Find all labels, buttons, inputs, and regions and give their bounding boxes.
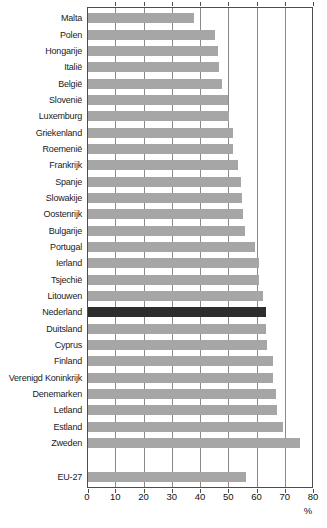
- value-bar: [88, 324, 266, 334]
- bar-row: Verenigd Koninkrijk: [0, 370, 327, 386]
- value-bar: [88, 472, 246, 482]
- x-axis-tick: [115, 2, 116, 6]
- bar-row: EU-27: [0, 469, 327, 485]
- x-axis-tick: [313, 2, 314, 6]
- value-bar: [88, 340, 267, 350]
- x-tick-label: 40: [189, 491, 211, 502]
- category-label: Cyprus: [0, 340, 82, 350]
- category-label: Letland: [0, 405, 82, 415]
- bar-row: Italië: [0, 59, 327, 75]
- value-bar: [88, 111, 229, 121]
- bar-row: Ierland: [0, 255, 327, 271]
- x-axis-tick: [172, 2, 173, 6]
- highlighted-bar-row: Nederland: [0, 304, 327, 320]
- value-bar: [88, 209, 243, 219]
- bar-row: Roemenië: [0, 141, 327, 157]
- value-bar: [88, 62, 219, 72]
- value-bar: [88, 258, 259, 268]
- bar-row: Portugal: [0, 239, 327, 255]
- category-label: Slowakije: [0, 193, 82, 203]
- bar-row: Finland: [0, 353, 327, 369]
- bar-row: Bulgarije: [0, 222, 327, 238]
- value-bar: [88, 46, 218, 56]
- bar-row: Estland: [0, 419, 327, 435]
- category-label: Litouwen: [0, 291, 82, 301]
- bar-row: Griekenland: [0, 124, 327, 140]
- value-bar: [88, 95, 228, 105]
- category-label: Estland: [0, 422, 82, 432]
- x-axis-tick: [144, 2, 145, 6]
- value-bar: [88, 160, 238, 170]
- x-tick-label: 60: [246, 491, 268, 502]
- category-label: Italië: [0, 62, 82, 72]
- category-label: Tsjechië: [0, 275, 82, 285]
- category-label: Slovenië: [0, 95, 82, 105]
- bar-row: Litouwen: [0, 288, 327, 304]
- x-tick-label: 20: [133, 491, 155, 502]
- category-label: Griekenland: [0, 128, 82, 138]
- value-bar: [88, 79, 222, 89]
- x-axis-labels: 01020304050607080: [0, 491, 327, 503]
- value-bar: [88, 275, 259, 285]
- value-bar: [88, 291, 263, 301]
- category-label: Malta: [0, 13, 82, 23]
- bar-row: Slovenië: [0, 92, 327, 108]
- x-axis-tick: [228, 2, 229, 6]
- value-bar: [88, 226, 245, 236]
- category-label: Zweden: [0, 438, 82, 448]
- value-bar: [88, 242, 255, 252]
- value-bar: [88, 177, 241, 187]
- category-label: Finland: [0, 356, 82, 366]
- x-axis-tick: [200, 2, 201, 6]
- bar-row: Hongarije: [0, 43, 327, 59]
- category-label: Oostenrijk: [0, 209, 82, 219]
- category-label: Denemarken: [0, 389, 82, 399]
- value-bar: [88, 373, 273, 383]
- bar-chart: MaltaPolenHongarijeItaliëBelgiëSloveniëL…: [0, 0, 327, 528]
- x-axis-tick: [257, 2, 258, 6]
- category-label: Hongarije: [0, 46, 82, 56]
- bar-row: Tsjechië: [0, 272, 327, 288]
- category-label: België: [0, 79, 82, 89]
- x-tick-label: 30: [161, 491, 183, 502]
- bar-row: België: [0, 75, 327, 91]
- value-bar: [88, 30, 215, 40]
- bar-row: Letland: [0, 402, 327, 418]
- category-label: Bulgarije: [0, 226, 82, 236]
- bar-row: Denemarken: [0, 386, 327, 402]
- x-tick-label: 80: [302, 491, 324, 502]
- category-label: Roemenië: [0, 144, 82, 154]
- value-bar: [88, 307, 266, 317]
- bar-row: Spanje: [0, 173, 327, 189]
- bar-row: Frankrijk: [0, 157, 327, 173]
- value-bar: [88, 144, 233, 154]
- category-label: Ierland: [0, 258, 82, 268]
- x-tick-label: 70: [274, 491, 296, 502]
- category-label: Spanje: [0, 177, 82, 187]
- bar-row: Cyprus: [0, 337, 327, 353]
- bar-row: Malta: [0, 10, 327, 26]
- category-label: Frankrijk: [0, 160, 82, 170]
- category-label: Duitsland: [0, 324, 82, 334]
- value-bar: [88, 422, 283, 432]
- category-label: EU-27: [0, 472, 82, 482]
- x-axis-tick: [285, 2, 286, 6]
- unit-label: %: [299, 505, 317, 516]
- bar-row: Luxemburg: [0, 108, 327, 124]
- category-label: Polen: [0, 30, 82, 40]
- value-bar: [88, 193, 242, 203]
- category-label: Portugal: [0, 242, 82, 252]
- category-label: Nederland: [0, 307, 82, 317]
- bar-rows: MaltaPolenHongarijeItaliëBelgiëSloveniëL…: [0, 10, 327, 486]
- bar-row: Oostenrijk: [0, 206, 327, 222]
- value-bar: [88, 389, 276, 399]
- value-bar: [88, 438, 300, 448]
- value-bar: [88, 405, 277, 415]
- value-bar: [88, 13, 194, 23]
- bar-row: Polen: [0, 26, 327, 42]
- bar-row: Zweden: [0, 435, 327, 451]
- bar-row: Duitsland: [0, 321, 327, 337]
- x-tick-label: 10: [104, 491, 126, 502]
- x-tick-label: 0: [76, 491, 98, 502]
- bar-row: Slowakije: [0, 190, 327, 206]
